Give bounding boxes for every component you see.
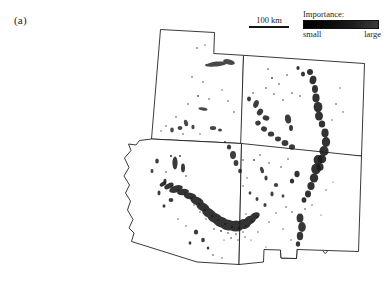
figure-panel: (a) 100 km Importance: small large bbox=[0, 0, 388, 283]
state-utah bbox=[152, 30, 244, 144]
el-paso-notch bbox=[323, 251, 327, 254]
state-colorado bbox=[241, 55, 365, 156]
state-arizona bbox=[124, 139, 242, 265]
state-boundaries bbox=[124, 30, 365, 265]
four-corners-map bbox=[0, 0, 388, 283]
state-new-mexico bbox=[239, 144, 362, 265]
state-new-mexico-bootheel bbox=[281, 250, 298, 259]
